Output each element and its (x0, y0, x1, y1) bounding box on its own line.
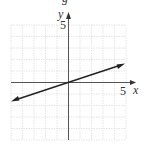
line-arrow-left-icon (11, 96, 20, 102)
x-tick-label: 5 (120, 84, 126, 99)
y-axis-arrow-icon (66, 12, 71, 19)
coordinate-plane (0, 0, 144, 147)
x-axis-label: x (133, 83, 138, 98)
line-arrow-right-icon (117, 64, 126, 70)
y-tick-label: 5 (60, 18, 66, 33)
